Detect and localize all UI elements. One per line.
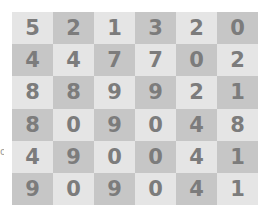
grid-cell-r1-c5[interactable]: 2 xyxy=(217,44,258,76)
edge-fragment: o xyxy=(0,147,4,157)
grid-cell-r2-c1[interactable]: 8 xyxy=(53,76,94,108)
grid-cell-r0-c1[interactable]: 2 xyxy=(53,12,94,44)
grid-cell-r5-c2[interactable]: 9 xyxy=(94,173,135,205)
grid-cell-r4-c0[interactable]: 4 xyxy=(12,141,53,173)
grid-cell-r1-c0[interactable]: 4 xyxy=(12,44,53,76)
grid-cell-r4-c5[interactable]: 1 xyxy=(217,141,258,173)
grid-cell-r2-c5[interactable]: 1 xyxy=(217,76,258,108)
grid-cell-r1-c1[interactable]: 4 xyxy=(53,44,94,76)
grid-cell-r3-c5[interactable]: 8 xyxy=(217,109,258,141)
grid-cell-r5-c0[interactable]: 9 xyxy=(12,173,53,205)
grid-cell-r1-c3[interactable]: 7 xyxy=(135,44,176,76)
grid-cell-r4-c2[interactable]: 0 xyxy=(94,141,135,173)
grid-cell-r0-c5[interactable]: 0 xyxy=(217,12,258,44)
grid-cell-r0-c4[interactable]: 2 xyxy=(176,12,217,44)
grid-cell-r5-c5[interactable]: 1 xyxy=(217,173,258,205)
grid-cell-r2-c4[interactable]: 2 xyxy=(176,76,217,108)
number-grid-board: 5 2 1 3 2 0 4 4 7 7 0 2 8 8 9 9 2 1 8 0 … xyxy=(12,12,258,205)
grid-cell-r2-c2[interactable]: 9 xyxy=(94,76,135,108)
grid-cell-r4-c4[interactable]: 4 xyxy=(176,141,217,173)
grid-cell-r3-c3[interactable]: 0 xyxy=(135,109,176,141)
grid-cell-r5-c4[interactable]: 4 xyxy=(176,173,217,205)
grid-cell-r3-c2[interactable]: 9 xyxy=(94,109,135,141)
grid-cell-r5-c3[interactable]: 0 xyxy=(135,173,176,205)
grid-cell-r0-c0[interactable]: 5 xyxy=(12,12,53,44)
grid-cell-r0-c2[interactable]: 1 xyxy=(94,12,135,44)
grid-cell-r3-c0[interactable]: 8 xyxy=(12,109,53,141)
grid-cell-r3-c4[interactable]: 4 xyxy=(176,109,217,141)
grid-cell-r2-c3[interactable]: 9 xyxy=(135,76,176,108)
grid-cell-r3-c1[interactable]: 0 xyxy=(53,109,94,141)
grid-cell-r5-c1[interactable]: 0 xyxy=(53,173,94,205)
grid-cell-r4-c1[interactable]: 9 xyxy=(53,141,94,173)
grid-cell-r1-c2[interactable]: 7 xyxy=(94,44,135,76)
grid-cell-r0-c3[interactable]: 3 xyxy=(135,12,176,44)
grid-cell-r4-c3[interactable]: 0 xyxy=(135,141,176,173)
grid-cell-r2-c0[interactable]: 8 xyxy=(12,76,53,108)
grid-cell-r1-c4[interactable]: 0 xyxy=(176,44,217,76)
